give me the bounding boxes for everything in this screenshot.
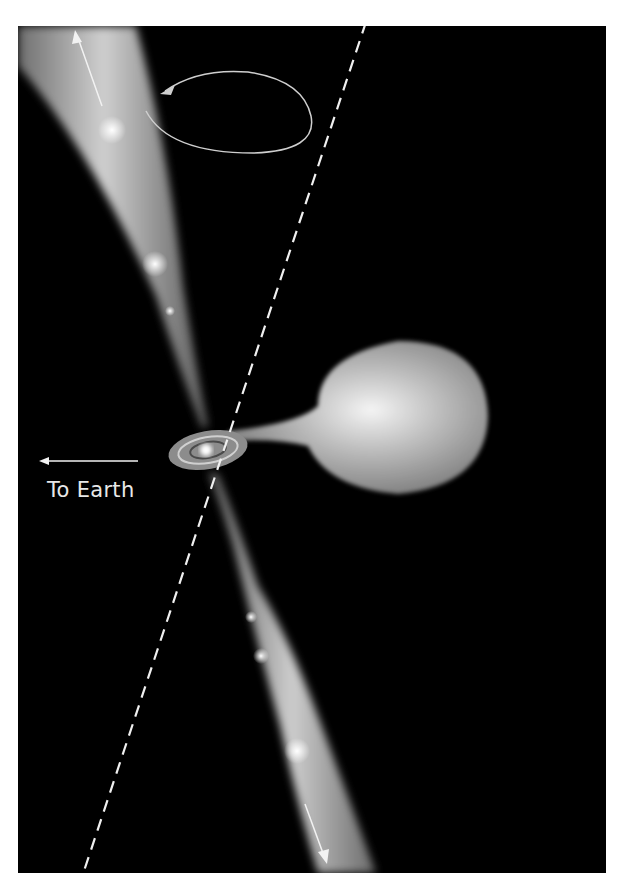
to-earth-label: To Earth: [47, 478, 135, 502]
to-earth-arrow-icon: [39, 457, 138, 465]
diagram-panel: To Earth: [18, 26, 606, 873]
lower-jet: [208, 472, 376, 873]
diagram-canvas: [18, 26, 606, 873]
precession-arrow-icon: [146, 71, 312, 153]
upper-jet: [18, 26, 208, 428]
companion-star: [228, 341, 488, 494]
